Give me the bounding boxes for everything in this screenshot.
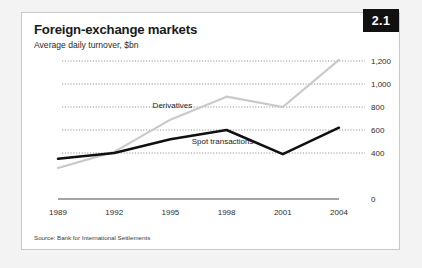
series-line-derivatives [58, 60, 339, 168]
series-label-derivatives: Derivatives [153, 101, 193, 110]
chart-plot-area: 04006008001,0001,20019891992199519982001… [22, 53, 401, 233]
figure-card-inner: 2.1 Foreign-exchange markets Average dai… [22, 13, 399, 249]
x-axis-label-2004: 2004 [330, 208, 348, 217]
y-axis-label-1200: 1,200 [371, 57, 392, 66]
figure-subtitle: Average daily turnover, $bn [34, 40, 138, 50]
y-axis-label-800: 800 [371, 103, 385, 112]
x-axis-label-1992: 1992 [105, 208, 123, 217]
series-label-spot-transactions: Spot transactions [192, 137, 254, 146]
y-axis-label-0: 0 [371, 195, 376, 204]
figure-source-note: Source: Bank for International Settlemen… [34, 234, 150, 241]
line-chart: 04006008001,0001,20019891992199519982001… [22, 53, 401, 233]
x-axis-label-1998: 1998 [218, 208, 236, 217]
x-axis-label-1995: 1995 [162, 208, 180, 217]
y-axis-label-600: 600 [371, 126, 385, 135]
figure-card: 2.1 Foreign-exchange markets Average dai… [21, 12, 400, 250]
y-axis-label-400: 400 [371, 149, 385, 158]
figure-title: Foreign-exchange markets [34, 22, 197, 37]
x-axis-label-1989: 1989 [49, 208, 67, 217]
figure-root: 2.1 Foreign-exchange markets Average dai… [0, 0, 422, 268]
x-axis-label-2001: 2001 [274, 208, 292, 217]
figure-number-badge: 2.1 [363, 9, 399, 32]
y-axis-label-1000: 1,000 [371, 80, 392, 89]
